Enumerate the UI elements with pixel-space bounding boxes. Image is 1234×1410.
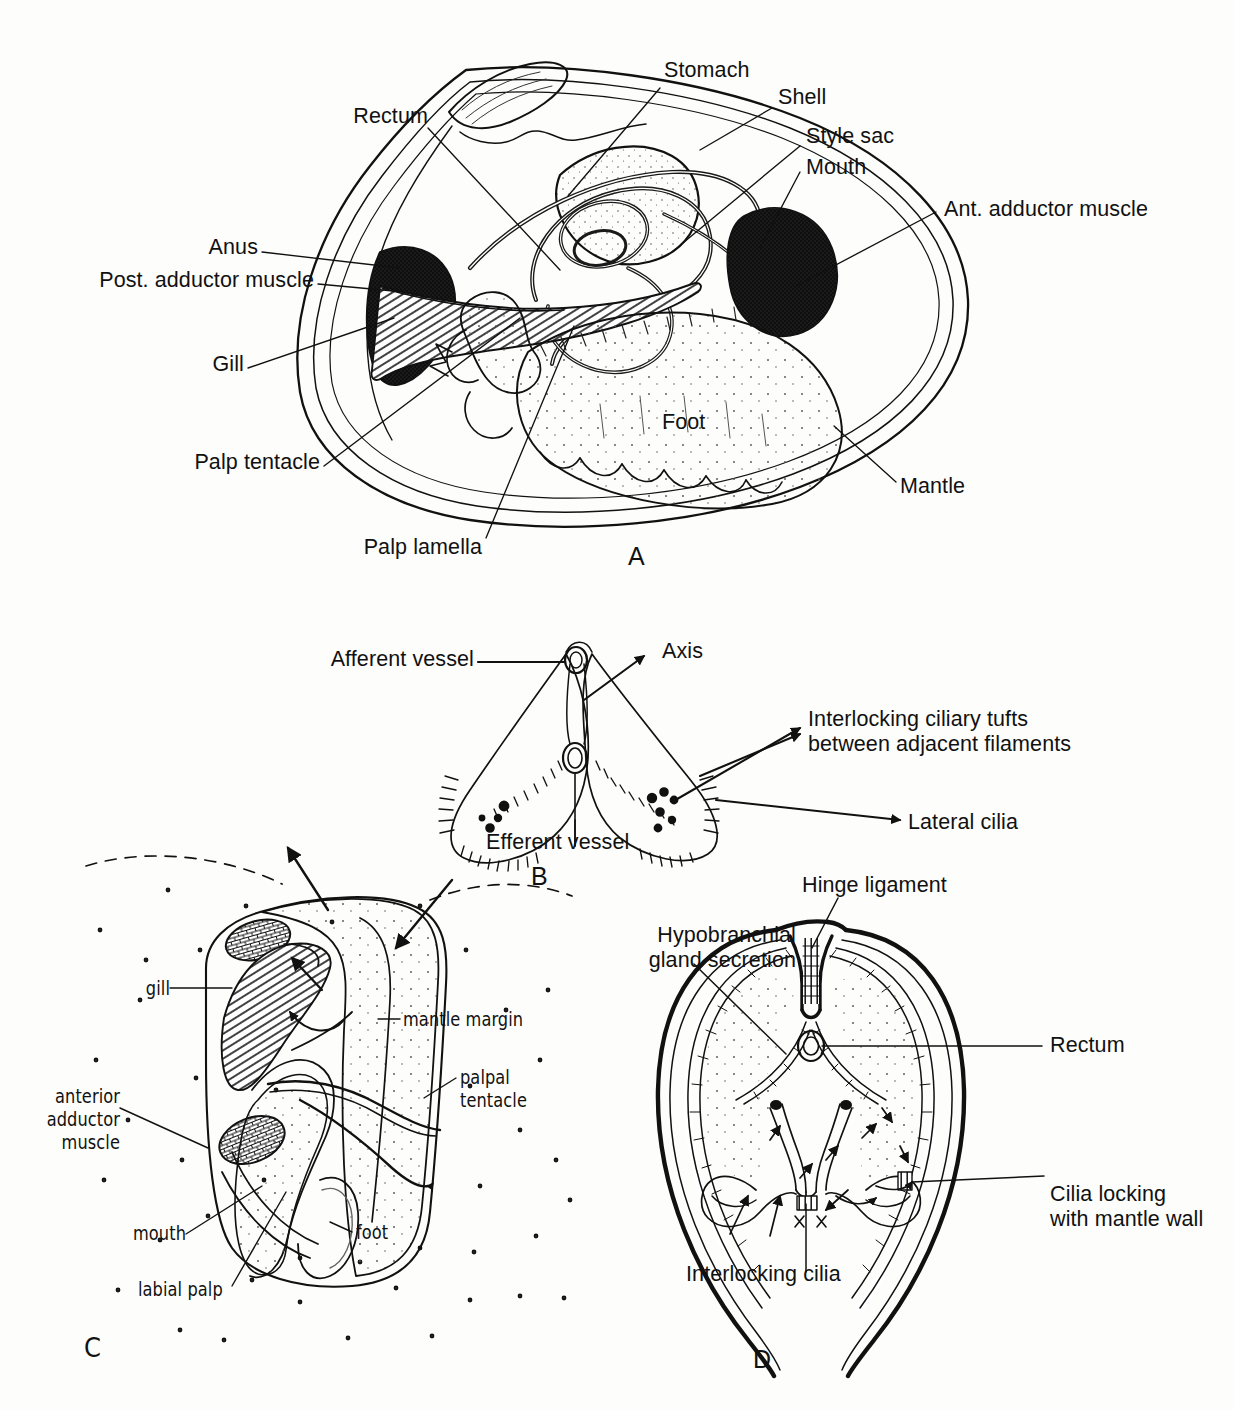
panel-letter-a: A	[628, 542, 645, 571]
figure-caption	[118, 1386, 1178, 1408]
label-labial-palp: labial palp	[138, 1278, 223, 1301]
label-anus: Anus	[80, 235, 258, 260]
label-hypobranchial-gland-secretion: Hypobranchial gland secretion	[588, 923, 796, 973]
label-ant-adductor-muscle: Ant. adductor muscle	[944, 197, 1148, 222]
label-palpal-tentacle: palpal tentacle	[460, 1066, 527, 1112]
label-interlocking-cilia: Interlocking cilia	[686, 1262, 841, 1287]
label-axis: Axis	[662, 639, 703, 664]
label-gill-a: Gill	[140, 352, 244, 377]
label-mantle-margin: mantle margin	[403, 1008, 523, 1031]
label-palp-tentacle: Palp tentacle	[140, 450, 320, 475]
label-mouth-c: mouth	[109, 1222, 186, 1245]
label-hinge-ligament: Hinge ligament	[802, 873, 947, 898]
label-palp-lamella: Palp lamella	[308, 535, 482, 560]
label-post-adductor-muscle: Post. adductor muscle	[36, 268, 314, 293]
label-efferent-vessel: Efferent vessel	[486, 830, 629, 855]
label-foot-a: Foot	[662, 410, 705, 435]
label-anterior-adductor-muscle: anterior adductor muscle	[21, 1085, 120, 1155]
label-stomach: Stomach	[664, 58, 750, 83]
label-shell: Shell	[778, 85, 826, 110]
panel-letter-c: C	[84, 1332, 101, 1363]
label-style-sac: Style sac	[806, 124, 894, 149]
label-mouth-a: Mouth	[806, 155, 866, 180]
panel-letter-b: B	[531, 862, 548, 891]
label-interlocking-ciliary-tufts: Interlocking ciliary tufts between adjac…	[808, 707, 1071, 757]
label-gill-c: gill	[100, 977, 170, 1000]
figure-root: Rectum Stomach Shell Style sac Mouth Ant…	[0, 0, 1234, 1410]
panel-letter-d: D	[753, 1345, 771, 1374]
label-rectum-d: Rectum	[1050, 1033, 1125, 1058]
label-cilia-locking-with-mantle-wall: Cilia locking with mantle wall	[1050, 1182, 1203, 1232]
label-afferent-vessel: Afferent vessel	[282, 647, 474, 672]
label-foot-c: foot	[356, 1221, 388, 1244]
label-lateral-cilia: Lateral cilia	[908, 810, 1018, 835]
label-mantle: Mantle	[900, 474, 965, 499]
label-rectum-a: Rectum	[258, 104, 428, 129]
